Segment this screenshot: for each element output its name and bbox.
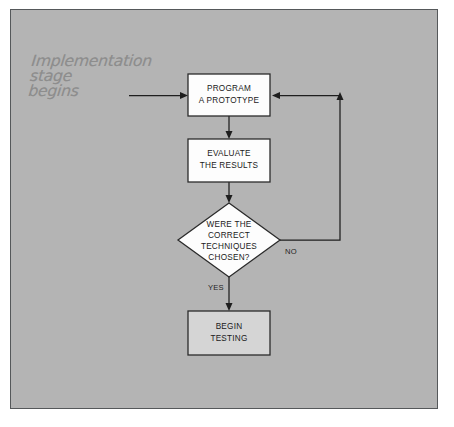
- node-begin-testing-line1: BEGIN: [216, 322, 243, 331]
- node-decision-techniques[interactable]: WERE THE CORRECT TECHNIQUES CHOSEN?: [178, 203, 280, 277]
- node-program-a-prototype-line1: PROGRAM: [207, 84, 251, 93]
- edge-entry-arrow: [129, 92, 188, 99]
- node-decision-line2: CORRECT: [208, 231, 250, 240]
- node-evaluate-the-results-line1: EVALUATE: [207, 149, 251, 158]
- node-program-a-prototype-line2: A PROTOTYPE: [199, 96, 260, 105]
- node-decision-line4: CHOSEN?: [208, 253, 250, 262]
- edge-prototype-to-evaluate: [226, 116, 233, 139]
- edge-label-yes: YES: [208, 283, 224, 292]
- node-decision-line1: WERE THE: [206, 220, 251, 229]
- edge-decision-yes: [226, 277, 233, 311]
- node-decision-line3: TECHNIQUES: [201, 242, 257, 251]
- edge-label-no: NO: [285, 247, 297, 256]
- node-evaluate-the-results[interactable]: EVALUATE THE RESULTS: [188, 139, 270, 182]
- node-begin-testing[interactable]: BEGIN TESTING: [188, 311, 270, 355]
- node-evaluate-the-results-line2: THE RESULTS: [200, 161, 259, 170]
- flowchart-canvas: PROGRAM A PROTOTYPE EVALUATE THE RESULTS…: [0, 0, 454, 427]
- node-program-a-prototype[interactable]: PROGRAM A PROTOTYPE: [188, 74, 270, 116]
- edge-decision-no: [272, 92, 344, 240]
- flowchart-figure: Implementation stage begins: [0, 0, 454, 427]
- node-begin-testing-line2: TESTING: [210, 334, 247, 343]
- edge-evaluate-to-decision: [226, 182, 233, 203]
